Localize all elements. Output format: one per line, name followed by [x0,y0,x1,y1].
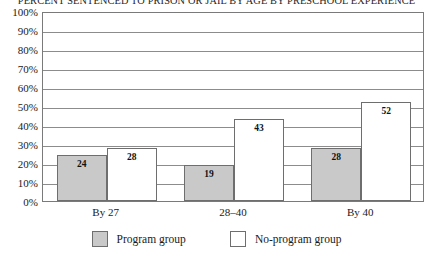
legend-label: No-program group [255,233,342,245]
y-axis-tick-label: 80% [0,44,38,56]
plot-area: 242819432852 [42,12,424,202]
y-axis-tick-label: 40% [0,120,38,132]
x-axis-tick-label: By 27 [92,206,119,218]
legend-item-program[interactable]: Program group [92,231,186,247]
bar-no-program-2[interactable]: 52 [361,102,411,201]
gridline [43,89,423,90]
chart-title: PERCENT SENTENCED TO PRISON OR JAIL BY A… [0,0,433,6]
bar-value-label: 24 [58,160,106,170]
legend-swatch-program [92,231,108,247]
y-axis-tick-label: 50% [0,101,38,113]
gridline [43,32,423,33]
bar-program-0[interactable]: 24 [57,155,107,201]
gridline [43,70,423,71]
gridline [43,51,423,52]
x-axis-tick-label: 28–40 [219,206,247,218]
legend-label: Program group [117,233,186,245]
bar-value-label: 43 [235,124,283,134]
bar-no-program-1[interactable]: 43 [234,119,284,201]
bar-program-1[interactable]: 19 [184,165,234,201]
legend-swatch-noprogram [230,231,246,247]
chart-legend: Program groupNo-program group [0,231,433,247]
bar-no-program-0[interactable]: 28 [107,148,157,201]
y-axis-tick-label: 0% [0,196,38,208]
y-axis-tick-label: 90% [0,25,38,37]
y-axis-tick-label: 60% [0,82,38,94]
bar-value-label: 28 [312,153,360,163]
bar-value-label: 28 [108,153,156,163]
y-axis-tick-label: 100% [0,6,38,18]
bar-value-label: 52 [362,107,410,117]
y-axis-tick-label: 70% [0,63,38,75]
bar-program-2[interactable]: 28 [311,148,361,201]
x-axis-tick-label: By 40 [347,206,374,218]
y-axis-tick-label: 30% [0,139,38,151]
y-axis-tick-label: 20% [0,158,38,170]
y-axis-tick-label: 10% [0,177,38,189]
legend-item-noprogram[interactable]: No-program group [230,231,342,247]
bar-value-label: 19 [185,170,233,180]
